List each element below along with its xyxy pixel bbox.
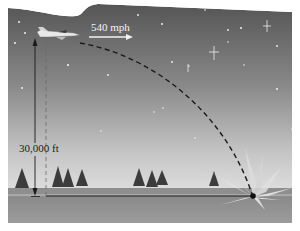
impact-point bbox=[250, 193, 256, 199]
ground bbox=[8, 188, 292, 223]
altitude-label: 30,000 ft bbox=[19, 142, 59, 154]
speed-label: 540 mph bbox=[91, 21, 130, 33]
diagram-scene: 540 mph 30,000 ft bbox=[0, 0, 300, 231]
illustration-canvas bbox=[0, 0, 300, 231]
